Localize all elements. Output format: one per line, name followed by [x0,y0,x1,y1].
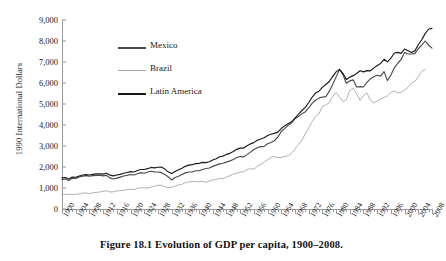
x-tick-mark-minor [288,209,289,212]
x-tick-mark-minor [220,209,221,212]
x-tick-mark-minor [292,209,293,212]
x-tick-mark-minor [333,209,334,212]
y-tick-label: 9,000 [4,15,58,25]
y-tick-label: 6,000 [4,78,58,88]
x-tick-mark-minor [178,209,179,212]
y-tick-label: 3,000 [4,141,58,151]
x-tick-mark-minor [196,209,197,212]
y-tick-label: 2,000 [4,162,58,172]
x-tick-mark-minor [316,209,317,212]
x-tick-mark-minor [244,209,245,212]
series-line-brazil [62,69,425,194]
x-tick-mark-minor [278,209,279,212]
x-tick-mark-minor [151,209,152,212]
x-tick-mark-minor [189,209,190,212]
x-tick-mark-minor [124,209,125,212]
x-tick-mark-minor [319,209,320,212]
x-tick-mark-minor [209,209,210,212]
legend-swatch-icon [118,47,146,49]
x-tick-mark-minor [257,209,258,212]
x-tick-mark-minor [429,209,430,212]
x-tick-mark-minor [223,209,224,212]
x-tick-mark-minor [271,209,272,212]
x-tick-mark-minor [69,209,70,212]
x-tick-mark-minor [96,209,97,212]
x-tick-mark-minor [148,209,149,212]
legend-swatch-icon [118,93,146,95]
x-tick-mark-minor [110,209,111,212]
x-tick-mark-minor [192,209,193,212]
x-tick-mark-minor [72,209,73,212]
x-tick-mark-minor [233,209,234,212]
x-tick-mark-minor [401,209,402,212]
x-tick-mark-minor [247,209,248,212]
x-tick-mark-minor [141,209,142,212]
x-tick-mark-minor [168,209,169,212]
x-tick-mark-minor [250,209,251,212]
x-tick-mark-minor [384,209,385,212]
x-tick-mark-minor [394,209,395,212]
x-tick-mark-minor [120,209,121,212]
x-tick-mark-minor [374,209,375,212]
x-tick-mark-minor [93,209,94,212]
x-tick-mark-minor [79,209,80,212]
x-tick-mark-minor [285,209,286,212]
x-tick-mark-minor [381,209,382,212]
y-tick-label: 0 [4,204,58,214]
x-tick-mark-minor [326,209,327,212]
y-tick-label: 8,000 [4,36,58,46]
y-tick-label: 5,000 [4,99,58,109]
y-tick-label: 4,000 [4,120,58,130]
x-tick-mark-minor [340,209,341,212]
x-tick-mark-minor [298,209,299,212]
x-tick-mark-minor [237,209,238,212]
x-tick-mark-minor [422,209,423,212]
x-tick-mark-minor [274,209,275,212]
x-tick-mark-minor [346,209,347,212]
x-tick-mark-minor [175,209,176,212]
y-tick-label: 7,000 [4,57,58,67]
x-tick-mark-minor [206,209,207,212]
x-tick-mark-minor [216,209,217,212]
x-tick-mark-minor [387,209,388,212]
series-line-latin-america [62,28,432,179]
x-tick-mark-minor [264,209,265,212]
series-line-mexico [62,41,432,180]
figure-caption: Figure 18.1 Evolution of GDP per capita,… [0,239,443,250]
x-tick-mark-minor [107,209,108,212]
x-tick-mark-minor [202,209,203,212]
x-tick-mark-minor [182,209,183,212]
x-tick-mark-minor [370,209,371,212]
x-tick-mark-minor [343,209,344,212]
x-tick-mark-minor [329,209,330,212]
x-tick-mark-minor [425,209,426,212]
x-tick-label: 2008 [431,201,446,219]
x-tick-mark-minor [127,209,128,212]
x-tick-mark-minor [134,209,135,212]
legend-label: Latin America [150,86,202,96]
x-tick-mark-minor [360,209,361,212]
x-tick-mark-minor [302,209,303,212]
x-tick-mark-minor [113,209,114,212]
x-tick-mark-minor [261,209,262,212]
x-tick-mark-minor [100,209,101,212]
x-tick-mark-minor [155,209,156,212]
x-tick-mark-minor [83,209,84,212]
x-tick-mark-minor [367,209,368,212]
x-tick-mark-minor [305,209,306,212]
x-tick-mark-minor [86,209,87,212]
x-tick-mark-minor [408,209,409,212]
legend-swatch-icon [118,70,146,71]
x-tick-mark-minor [137,209,138,212]
x-tick-mark-minor [161,209,162,212]
x-tick-mark-minor [353,209,354,212]
x-tick-mark-minor [398,209,399,212]
legend-label: Brazil [150,63,172,73]
x-tick-mark-minor [411,209,412,212]
x-tick-mark-minor [357,209,358,212]
y-tick-label: 1,000 [4,183,58,193]
x-tick-mark-minor [165,209,166,212]
x-tick-mark-minor [312,209,313,212]
x-tick-mark-minor [415,209,416,212]
